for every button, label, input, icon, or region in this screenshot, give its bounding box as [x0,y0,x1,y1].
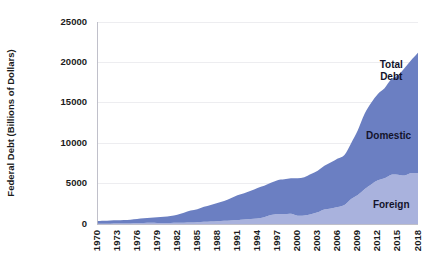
x-tick-label-1982: 1982 [171,230,182,251]
y-tick-label-20000: 20000 [61,56,87,67]
y-tick-label-5000: 5000 [66,177,87,188]
annotation-total: TotalDebt [380,58,403,81]
x-tick-label-2015: 2015 [391,229,402,251]
x-tick-label-2003: 2003 [311,230,322,251]
annotation-domestic: Domestic [366,130,411,141]
federal-debt-area-chart: 0500010000150002000025000 19701973197619… [0,0,443,275]
y-tick-label-10000: 10000 [61,137,87,148]
x-tick-label-2012: 2012 [371,230,382,251]
x-tick-label-2018: 2018 [412,230,423,251]
x-tick-label-2009: 2009 [351,230,362,251]
x-tick-label-2000: 2000 [291,230,302,251]
annotation-foreign: Foreign [373,199,410,210]
y-axis-title-group: Federal Debt (Billions of Dollars) [5,49,16,196]
x-tick-label-2006: 2006 [331,230,342,251]
y-tick-labels-group: 0500010000150002000025000 [61,16,87,229]
y-axis-title: Federal Debt (Billions of Dollars) [5,49,16,196]
x-tick-label-1991: 1991 [231,229,242,251]
x-tick-label-1994: 1994 [251,229,262,251]
y-tick-label-25000: 25000 [61,16,87,27]
chart-canvas: 0500010000150002000025000 19701973197619… [0,0,443,275]
x-tick-label-1988: 1988 [211,230,222,251]
x-tick-label-1997: 1997 [271,230,282,251]
y-tick-label-0: 0 [82,218,87,229]
y-tick-label-15000: 15000 [61,96,87,107]
x-tick-label-1973: 1973 [111,230,122,251]
x-tick-label-1985: 1985 [191,229,202,251]
x-tick-label-1979: 1979 [151,230,162,251]
x-tick-label-1976: 1976 [131,230,142,251]
x-tick-label-1970: 1970 [91,230,102,251]
x-tick-labels-group: 1970197319761979198219851988199119941997… [91,229,423,251]
